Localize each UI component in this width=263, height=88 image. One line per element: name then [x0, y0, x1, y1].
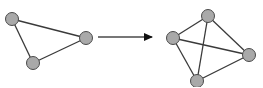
edge-B-C	[33, 38, 86, 63]
edge-T-D	[197, 16, 208, 81]
node-T	[202, 10, 215, 23]
node-R	[243, 49, 256, 62]
edge-T-R	[208, 16, 249, 55]
complete-graph-k4	[167, 10, 256, 88]
edge-A-C	[12, 19, 33, 63]
edge-A-B	[12, 19, 86, 38]
edge-L-R	[173, 38, 249, 55]
graph-transformation-diagram	[0, 0, 263, 87]
edge-R-D	[197, 55, 249, 81]
node-A	[6, 13, 19, 26]
node-B	[80, 32, 93, 45]
node-L	[167, 32, 180, 45]
triangle-graph	[6, 13, 93, 70]
edge-L-D	[173, 38, 197, 81]
node-D	[191, 75, 204, 88]
node-C	[27, 57, 40, 70]
